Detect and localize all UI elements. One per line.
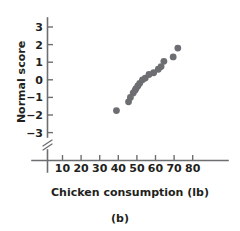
x-tick-label-40: 40 (111, 162, 127, 175)
figure-caption: (b) (111, 212, 129, 225)
x-axis-title: Chicken consumption (lb) (51, 186, 209, 199)
y-axis-title: Normal score (15, 41, 28, 123)
data-points-series (113, 45, 181, 114)
scatter-plot-canvas: 3 2 1 0 −1 −2 −3 10 20 30 40 50 (0, 0, 240, 231)
x-tick-label-30: 30 (92, 162, 108, 175)
data-point (170, 54, 177, 61)
y-axis-ticks: 3 2 1 0 −1 −2 −3 (26, 21, 53, 140)
x-tick-label-10: 10 (55, 162, 71, 175)
y-tick-label-minus1: −1 (26, 91, 43, 104)
y-tick-label-3: 3 (35, 21, 43, 34)
x-tick-label-20: 20 (73, 162, 89, 175)
data-point (174, 45, 181, 52)
x-axis-ticks: 10 20 30 40 50 60 70 80 (55, 155, 201, 175)
y-tick-label-2: 2 (35, 39, 43, 52)
y-tick-label-minus2: −2 (26, 109, 43, 122)
data-point (160, 58, 167, 65)
y-tick-label-0: 0 (35, 74, 43, 87)
y-tick-label-1: 1 (35, 56, 43, 69)
y-axis-break-icon (43, 140, 52, 150)
data-point (113, 107, 120, 114)
x-tick-label-70: 70 (166, 162, 182, 175)
x-tick-label-80: 80 (185, 162, 201, 175)
x-tick-label-50: 50 (129, 162, 145, 175)
x-tick-label-60: 60 (148, 162, 164, 175)
y-tick-label-minus3: −3 (26, 127, 43, 140)
normal-probability-plot-figure: 3 2 1 0 −1 −2 −3 10 20 30 40 50 (0, 0, 240, 231)
